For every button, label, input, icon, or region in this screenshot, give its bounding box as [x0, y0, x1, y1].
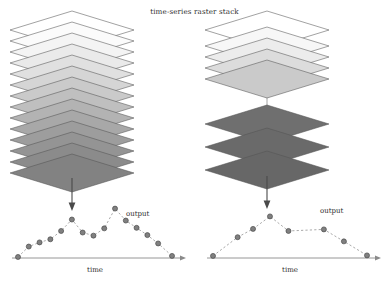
figure-root: time-series raster stack output time [0, 0, 389, 284]
data-point [341, 239, 346, 244]
data-point [321, 227, 326, 232]
data-point [235, 235, 240, 240]
panel-right-canvas: output time [195, 0, 389, 284]
data-point [37, 240, 42, 245]
panel-left: output time [0, 0, 194, 284]
panel-left-canvas: output time [0, 0, 194, 284]
data-point [286, 228, 291, 233]
axis-label-time-right: time [282, 266, 298, 274]
series-label-output-right: output [320, 207, 344, 215]
data-point [16, 254, 21, 259]
time-axis-arrow [180, 256, 186, 261]
data-point [69, 217, 74, 222]
data-point [102, 226, 107, 231]
data-point [80, 230, 85, 235]
data-point [145, 233, 150, 238]
raster-layer-stack-left [10, 11, 134, 192]
data-point [134, 225, 139, 230]
axis-label-time-left: time [87, 266, 103, 274]
data-point [123, 218, 128, 223]
panel-right: output time [195, 0, 389, 284]
time-axis-arrow [375, 256, 381, 261]
data-point [365, 253, 370, 258]
data-point [48, 237, 53, 242]
data-point [170, 253, 175, 258]
data-point [211, 253, 216, 258]
data-point [156, 241, 161, 246]
timeseries-chart-right [207, 214, 381, 261]
data-point [251, 226, 256, 231]
data-point [113, 206, 118, 211]
data-point [91, 233, 96, 238]
series-label-output-left: output [126, 210, 150, 218]
data-point [59, 228, 64, 233]
data-point [26, 244, 31, 249]
data-point [267, 214, 272, 219]
timeseries-chart-left [12, 206, 186, 260]
